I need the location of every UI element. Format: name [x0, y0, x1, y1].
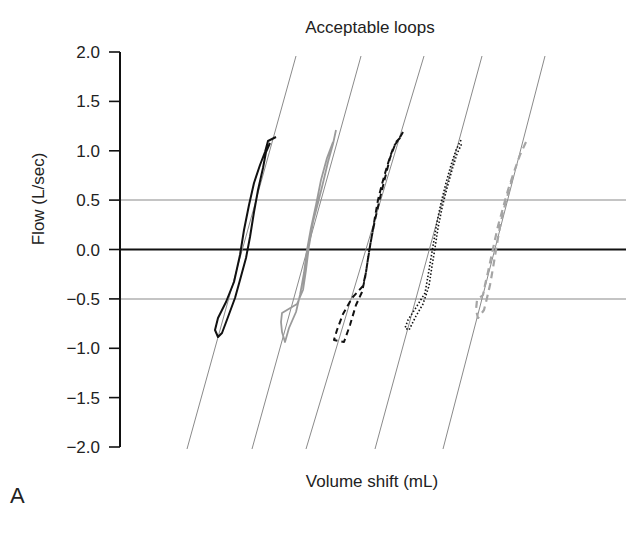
y-tick-label: −1.5 — [66, 389, 100, 408]
y-axis: 2.0 1.5 1.0 0.5 0.0 −0.5 −1.0 −1.5 −2.0 — [66, 43, 120, 457]
x-axis-title: Volume shift (mL) — [306, 472, 438, 491]
y-tick-label: 2.0 — [76, 43, 100, 62]
y-tick-label: −1.0 — [66, 339, 100, 358]
y-tick-label: −2.0 — [66, 438, 100, 457]
panel-label: A — [10, 483, 25, 508]
loop-2-solid-gray — [281, 130, 336, 342]
flow-volume-chart: Acceptable loops 2.0 1.5 1.0 0.5 0.0 −0.… — [0, 0, 632, 533]
y-tick-label: 0.0 — [76, 241, 100, 260]
y-tick-label: 1.0 — [76, 142, 100, 161]
y-tick-label: −0.5 — [66, 290, 100, 309]
y-axis-title: Flow (L/sec) — [29, 153, 48, 246]
chart-title: Acceptable loops — [305, 18, 434, 37]
y-tick-label: 1.5 — [76, 92, 100, 111]
loop-3-dashed-black — [334, 132, 403, 342]
y-tick-label: 0.5 — [76, 191, 100, 210]
